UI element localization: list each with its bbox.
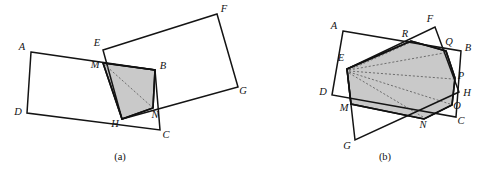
panel-b-label-F: F (426, 13, 434, 24)
panel-a-label-G: G (239, 85, 247, 96)
panel-b-label-O: O (453, 100, 461, 111)
panel-b-label-H: H (462, 87, 472, 98)
panel-b-label-Q: Q (445, 36, 453, 47)
panel-b-label-N: N (418, 119, 427, 130)
panel-b-label-R: R (401, 28, 409, 39)
panel-b-label-E: E (337, 52, 345, 63)
panel-a-label-C: C (162, 129, 170, 140)
panel-a-group: A B C D E F G H M N (a) (13, 3, 247, 163)
panel-a-label-B: B (160, 60, 167, 71)
panel-a-caption: (a) (114, 151, 126, 163)
panel-a-label-H: H (110, 118, 120, 129)
panel-a-label-F: F (220, 3, 228, 14)
panel-a-label-A: A (18, 41, 26, 52)
panel-b-caption: (b) (379, 151, 392, 163)
panel-b-label-A: A (330, 20, 338, 31)
panel-b-label-B: B (465, 42, 472, 53)
panel-a-label-N: N (150, 109, 159, 120)
geometry-figure-board: A B C D E F G H M N (a) (0, 0, 490, 172)
panel-b-label-D: D (318, 86, 327, 97)
panel-b-label-P: P (457, 70, 465, 81)
panel-b-label-G: G (343, 140, 351, 151)
panel-b-label-C: C (457, 115, 465, 126)
panel-a-label-M: M (90, 59, 101, 70)
panel-b-group: A B C D E F H G R Q P O N M (b) (318, 13, 472, 163)
panel-a-label-D: D (13, 106, 22, 117)
geometry-svg-canvas: A B C D E F G H M N (a) (0, 0, 490, 172)
panel-a-label-E: E (93, 37, 101, 48)
panel-b-label-M: M (339, 102, 350, 113)
